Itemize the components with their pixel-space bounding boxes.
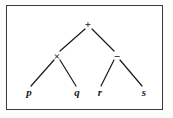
tree-node-q: q (74, 87, 80, 98)
tree-node-s: s (142, 87, 146, 98)
tree-node-r: r (98, 87, 102, 98)
expression-tree-figure: +×−pqrs (0, 0, 173, 118)
tree-edge-minus-r (101, 60, 114, 86)
tree-edge-root-mul (60, 29, 85, 51)
tree-node-p: p (26, 87, 32, 98)
tree-edge-mul-q (60, 60, 76, 86)
tree-edge-mul-p (31, 60, 54, 86)
tree-edge-minus-s (120, 60, 142, 86)
tree-node-minus: − (114, 51, 120, 62)
tree-node-mul: × (54, 51, 60, 62)
tree-edge-root-minus (92, 29, 114, 51)
tree-node-root: + (85, 19, 91, 30)
